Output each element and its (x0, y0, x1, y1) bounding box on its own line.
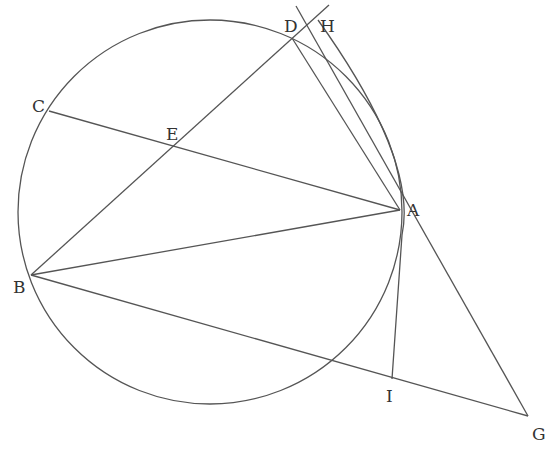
label-E: E (166, 124, 178, 144)
label-I: I (386, 386, 393, 406)
label-C: C (32, 96, 45, 116)
label-G: G (532, 424, 546, 444)
label-A: A (406, 200, 420, 220)
label-D: D (284, 16, 298, 36)
circle (18, 20, 402, 404)
line-BA (31, 210, 400, 275)
line-BD (31, 5, 329, 275)
label-B: B (13, 277, 26, 297)
label-H: H (320, 16, 335, 36)
geometry-diagram: D H C E A B I G (0, 0, 556, 457)
line-BG (31, 275, 528, 416)
